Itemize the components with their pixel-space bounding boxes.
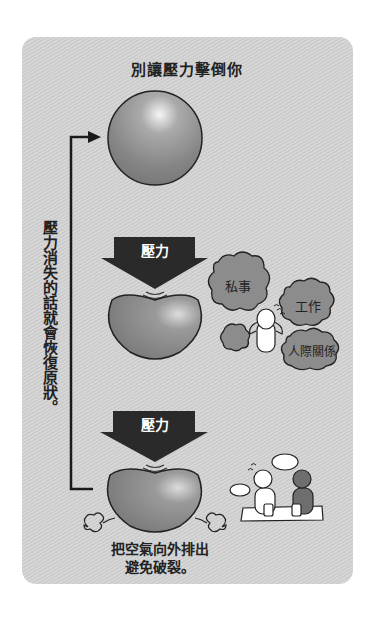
caption-line-1: 把空氣向外排出 — [80, 540, 240, 558]
cloud-label-relationships: 人際關係 — [286, 342, 338, 359]
return-arrow — [71, 131, 101, 489]
cloud-label-private: 私事 — [218, 276, 258, 295]
cloud-small — [221, 324, 250, 351]
sphere-squished-1 — [109, 295, 202, 359]
side-note: 壓力消失的話就會恢復原狀。 — [40, 220, 58, 415]
cloud-label-work: 工作 — [288, 296, 328, 315]
sphere-normal — [108, 91, 202, 185]
side-note-text: 壓力消失的話就會恢復原狀。 — [40, 220, 58, 415]
sphere-squished-2 — [108, 469, 202, 532]
conversation-scene-icon — [230, 454, 323, 521]
caption: 把空氣向外排出 避免破裂。 — [80, 540, 240, 576]
pressure-label-2: 壓力 — [115, 414, 195, 434]
caption-line-2: 避免破裂。 — [80, 558, 240, 576]
pressure-label-1: 壓力 — [115, 240, 195, 260]
stressed-person-icon — [250, 305, 285, 353]
